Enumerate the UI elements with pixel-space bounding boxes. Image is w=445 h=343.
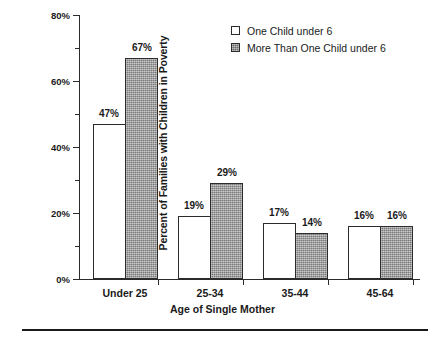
bar-25-34-more-than-one — [210, 183, 243, 279]
x-category-label-35-44: 35-44 — [282, 287, 309, 299]
y-tick-label-60: 60% — [30, 76, 70, 87]
y-tick-60 — [73, 81, 80, 82]
bar-under-25-one-child — [93, 124, 126, 279]
y-tick-label-20: 20% — [30, 208, 70, 219]
x-category-label-25-34: 25-34 — [197, 287, 224, 299]
y-tick-80 — [73, 15, 80, 16]
bar-label-35-44-one-child: 17% — [269, 207, 289, 218]
bar-label-45-64-more-than-one: 16% — [387, 210, 407, 221]
x-tick-3 — [328, 279, 329, 285]
legend-item-one-child: One Child under 6 — [231, 22, 431, 39]
bar-35-44-one-child — [263, 223, 296, 279]
bar-label-25-34-more-than-one: 29% — [217, 167, 237, 178]
y-minor-tick-50 — [75, 114, 80, 115]
bar-35-44-more-than-one — [295, 233, 328, 279]
x-tick-1 — [158, 279, 159, 285]
y-tick-40 — [73, 147, 80, 148]
legend-label-one-child: One Child under 6 — [247, 25, 332, 37]
chart-legend: One Child under 6 More Than One Child un… — [231, 22, 431, 56]
y-tick-20 — [73, 213, 80, 214]
bar-under-25-more-than-one — [125, 58, 158, 279]
bar-label-under-25-one-child: 47% — [99, 108, 119, 119]
x-axis-line — [79, 279, 420, 280]
bar-45-64-one-child — [348, 226, 381, 279]
y-tick-0 — [73, 279, 80, 280]
x-tick-4 — [413, 279, 414, 285]
footer-divider — [22, 329, 428, 331]
legend-swatch-one-child-icon — [231, 26, 240, 35]
y-minor-tick-10 — [75, 246, 80, 247]
legend-swatch-more-than-one-child-icon — [231, 43, 240, 52]
bar-chart-figure: Percent of Families with Children in Pov… — [0, 0, 445, 343]
y-minor-tick-30 — [75, 180, 80, 181]
y-tick-label-40: 40% — [30, 142, 70, 153]
bar-label-under-25-more-than-one: 67% — [132, 42, 152, 53]
x-category-label-under-25: Under 25 — [103, 287, 148, 299]
x-tick-2 — [243, 279, 244, 285]
y-minor-tick-70 — [75, 48, 80, 49]
bar-label-25-34-one-child: 19% — [184, 200, 204, 211]
bar-label-35-44-more-than-one: 14% — [302, 217, 322, 228]
legend-item-more-than-one-child: More Than One Child under 6 — [231, 39, 431, 56]
y-tick-label-0: 0% — [30, 274, 70, 285]
x-category-label-45-64: 45-64 — [367, 287, 394, 299]
x-axis-title: Age of Single Mother — [0, 303, 445, 315]
bar-label-45-64-one-child: 16% — [354, 210, 374, 221]
y-tick-label-80: 80% — [30, 10, 70, 21]
bar-25-34-one-child — [178, 216, 211, 279]
bar-45-64-more-than-one — [380, 226, 413, 279]
legend-label-more-than-one-child: More Than One Child under 6 — [247, 42, 386, 54]
